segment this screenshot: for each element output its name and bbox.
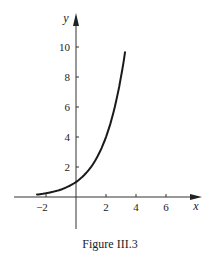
y-axis-label: y (62, 11, 69, 25)
x-tick-label: 2 (103, 201, 109, 213)
y-tick-label: 4 (65, 131, 71, 143)
figure-caption: Figure III.3 (82, 237, 137, 251)
y-axis-arrow-icon (73, 13, 79, 26)
x-tick-label: −2 (36, 201, 48, 213)
y-tick-label: 6 (65, 101, 71, 113)
y-tick-label: 10 (59, 41, 71, 53)
y-tick-label: 8 (65, 71, 71, 83)
x-axis-label: x (192, 199, 199, 213)
figure-canvas: −2 2 4 6 2 4 6 8 10 x y Figure III.3 (0, 0, 215, 256)
x-tick-label: 6 (163, 201, 169, 213)
exponential-curve (37, 182, 76, 195)
x-tick-label: 4 (133, 201, 139, 213)
curve-line (37, 52, 125, 194)
y-tick-label: 2 (65, 161, 71, 173)
